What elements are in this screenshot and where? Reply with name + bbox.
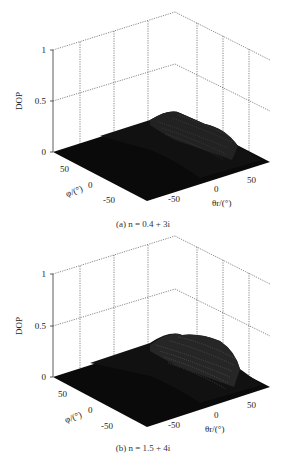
surface-plot-a: 1 0.5 0 DOP 50 0 -50 φ/(°) -50 0 50 θr/(… — [0, 0, 286, 231]
z-axis-label: DOP — [14, 317, 24, 335]
z-tick-1: 1 — [42, 45, 47, 55]
theta-tick-0: 0 — [214, 410, 219, 420]
dop-surface — [53, 112, 270, 201]
theta-tick-neg50: -50 — [168, 194, 180, 204]
z-axis-label: DOP — [14, 92, 24, 110]
phi-tick-neg50: -50 — [101, 421, 113, 431]
phi-tick-neg50: -50 — [103, 195, 115, 205]
phi-axis-label: φ/(°) — [63, 410, 83, 425]
phi-tick-0: 0 — [88, 405, 93, 415]
z-tick-0: 0 — [42, 372, 47, 382]
caption-b: (b) n = 1.5 + 4i — [0, 443, 286, 453]
phi-axis-label: φ/(°) — [64, 184, 84, 199]
theta-tick-0: 0 — [214, 184, 219, 194]
theta-tick-50: 50 — [247, 175, 257, 185]
caption-a: (a) n = 0.4 + 3i — [0, 219, 286, 229]
theta-axis-label: θr/(°) — [205, 424, 224, 434]
theta-tick-neg50: -50 — [168, 420, 180, 430]
z-tick-0.5: 0.5 — [35, 321, 47, 331]
surface-plot-b: 1 0.5 0 DOP 50 0 -50 φ/(°) -50 0 50 θr/(… — [0, 231, 286, 462]
phi-tick-50: 50 — [60, 164, 70, 174]
z-tick-1: 1 — [42, 269, 47, 279]
phi-tick-0: 0 — [88, 180, 93, 190]
z-tick-0.5: 0.5 — [35, 96, 47, 106]
subplot-b: 1 0.5 0 DOP 50 0 -50 φ/(°) -50 0 50 θr/(… — [0, 231, 286, 462]
theta-axis-label: θr/(°) — [212, 198, 231, 208]
dop-surface — [53, 334, 270, 427]
subplot-a: 1 0.5 0 DOP 50 0 -50 φ/(°) -50 0 50 θr/(… — [0, 0, 286, 231]
z-tick-0: 0 — [42, 147, 47, 157]
theta-tick-50: 50 — [247, 400, 257, 410]
phi-tick-50: 50 — [58, 389, 68, 399]
